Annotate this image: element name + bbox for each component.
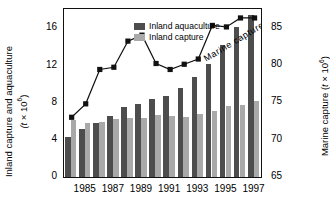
right-axis-unit-exponent: 6: [318, 59, 325, 63]
right-axis-tick-label: 75: [271, 95, 311, 106]
legend-label-inland-capture: Inland capture: [149, 32, 203, 43]
left-axis-tick-label: 0: [17, 170, 57, 181]
bar-inland-aquaculture: [65, 137, 71, 177]
legend-item-inland-aquaculture: Inland aquaculture: [134, 21, 220, 32]
x-axis-tick: [226, 177, 227, 178]
left-axis-tick: [63, 103, 64, 104]
left-axis-tick-label: 8: [17, 96, 57, 107]
bar-inland-aquaculture: [192, 77, 198, 177]
x-axis-tick-minor: [184, 177, 185, 178]
bar-inland-capture: [113, 119, 119, 177]
legend-swatch-inland-aquaculture: [134, 23, 145, 30]
x-axis-tick-minor: [212, 177, 213, 178]
left-axis-tick: [63, 177, 64, 178]
left-axis-tick-label: 4: [17, 133, 57, 144]
right-axis-title: Marine capture (t × 106): [316, 26, 330, 186]
bar-inland-capture: [141, 118, 147, 177]
bar-inland-capture: [99, 122, 105, 177]
bar-inland-aquaculture: [107, 116, 113, 177]
right-axis-tick-label: 65: [271, 170, 311, 181]
bar-inland-capture: [183, 117, 189, 177]
bar-inland-aquaculture: [121, 107, 127, 177]
x-axis-tick-minor: [72, 177, 73, 178]
right-axis-tick-label: 85: [271, 21, 311, 32]
x-axis-tick: [198, 177, 199, 178]
x-axis-tick: [114, 177, 115, 178]
bar-inland-aquaculture: [234, 27, 240, 177]
bar-inland-aquaculture: [149, 99, 155, 177]
right-axis-tick: [261, 102, 262, 103]
bar-inland-capture: [127, 118, 133, 177]
left-axis-title: Inland capture and aquaculture (t × 106): [3, 32, 28, 192]
bar-inland-capture: [169, 116, 175, 177]
legend-item-inland-capture: Inland capture: [134, 32, 220, 43]
right-axis-tick-label: 70: [271, 133, 311, 144]
left-axis-title-line1: Inland capture and aquaculture: [3, 46, 14, 177]
bar-inland-capture: [254, 101, 260, 177]
bar-inland-aquaculture: [248, 15, 254, 177]
bar-inland-aquaculture: [206, 64, 212, 177]
bar-inland-capture: [71, 120, 77, 177]
right-axis-tick: [261, 28, 262, 29]
left-axis-tick: [63, 66, 64, 67]
x-axis-tick-minor: [240, 177, 241, 178]
left-axis-unit-t: (t: [18, 123, 29, 129]
right-axis-tick: [261, 65, 262, 66]
bar-inland-aquaculture: [79, 129, 85, 177]
x-axis-tick: [170, 177, 171, 178]
plot-area: Marine capture Inland aquaculture Inland…: [63, 8, 262, 178]
left-axis-tick-label: 12: [17, 59, 57, 70]
legend-label-inland-aquaculture: Inland aquaculture: [149, 21, 220, 32]
left-axis-tick-label: 16: [17, 21, 57, 32]
bar-inland-capture: [240, 105, 246, 177]
right-axis-unit-times: × 10: [319, 63, 330, 84]
bar-inland-capture: [85, 123, 91, 177]
bar-inland-aquaculture: [220, 45, 226, 177]
bar-inland-capture: [212, 111, 218, 177]
x-axis-tick-minor: [156, 177, 157, 178]
chart-legend: Inland aquaculture Inland capture: [134, 21, 220, 43]
right-axis-tick-label: 80: [271, 58, 311, 69]
bar-inland-capture: [226, 106, 232, 177]
bar-inland-capture: [155, 115, 161, 177]
left-axis-tick: [63, 140, 64, 141]
x-axis-tick-label: 1997: [234, 183, 274, 194]
x-axis-tick: [255, 177, 256, 178]
bar-inland-aquaculture: [178, 88, 184, 177]
legend-swatch-inland-capture: [134, 34, 145, 41]
left-axis-tick: [63, 28, 64, 29]
bar-inland-capture: [197, 114, 203, 177]
right-axis-tick: [261, 177, 262, 178]
right-axis-unit-t: t: [319, 84, 330, 87]
x-axis-tick: [142, 177, 143, 178]
right-axis-title-text: Marine capture (: [319, 87, 330, 156]
x-axis-tick-minor: [100, 177, 101, 178]
x-axis-tick-minor: [128, 177, 129, 178]
right-axis-tick: [261, 140, 262, 141]
bar-inland-aquaculture: [135, 104, 141, 177]
right-axis-unit-close: ): [319, 56, 330, 59]
x-axis-tick: [86, 177, 87, 178]
bar-inland-aquaculture: [163, 96, 169, 177]
bar-inland-aquaculture: [93, 123, 99, 177]
